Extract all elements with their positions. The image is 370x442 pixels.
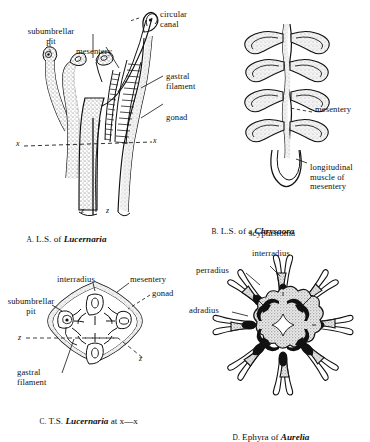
b-mesenteries-right [290, 31, 329, 141]
label-mesentery-a: mesentery [62, 47, 126, 57]
panel-d-artwork [213, 255, 353, 395]
mark-z-left-c: z [18, 333, 21, 342]
mark-z-right-a: z [106, 206, 109, 215]
label-gonad-a: gonad [166, 113, 216, 123]
caption-c-suffix: at x—x [108, 416, 138, 426]
caption-c: C. T.S. Lucernaria at x—x [35, 406, 138, 426]
caption-d-text: Ephyra of [240, 432, 281, 442]
label-gastral-filament-a: gastral filament [166, 72, 224, 91]
caption-d-letter: D. [233, 433, 240, 442]
caption-a: A. L.S. of Lucernaria [22, 224, 107, 244]
caption-a-letter: A. [27, 235, 34, 244]
label-adradius-d: adradius [189, 306, 243, 316]
mark-x-right-a: x [153, 136, 157, 145]
label-interradius-c: interradius [57, 275, 123, 285]
label-gastral-filament-c: gastral filament [17, 368, 67, 387]
label-perradius-d: perradius [196, 266, 258, 276]
label-subumbrellar-pit-c: subumbrellar pit [2, 297, 60, 316]
mark-x-left-a: x [16, 139, 20, 148]
label-subumbrellar-pit-a: subumbrellar pit [6, 27, 96, 46]
caption-d: D. Ephyra of Aurelia [228, 422, 309, 442]
label-gonad-c: gonad [152, 289, 192, 299]
caption-d-taxon: Aurelia [281, 432, 310, 442]
caption-c-text: T.S. [46, 416, 65, 426]
label-longitudinal-muscle-b: longitudinal muscle of mesentery [310, 163, 370, 192]
label-mesentery-c: mesentery [130, 275, 190, 285]
mark-z-right-c: z [139, 354, 142, 363]
label-circular-canal-a: circular canal [160, 10, 220, 29]
b-mesenteries-left [245, 31, 284, 141]
caption-b-suffix: scyphistoma [207, 228, 337, 238]
caption-c-taxon: Lucernaria [65, 416, 108, 426]
label-interradius-d: interradius [252, 249, 322, 259]
label-mesentery-b: mesentery [315, 105, 370, 115]
caption-a-taxon: Lucernaria [64, 234, 107, 244]
caption-a-text: L.S. of [34, 234, 64, 244]
mark-z-left-a: z [81, 206, 84, 215]
